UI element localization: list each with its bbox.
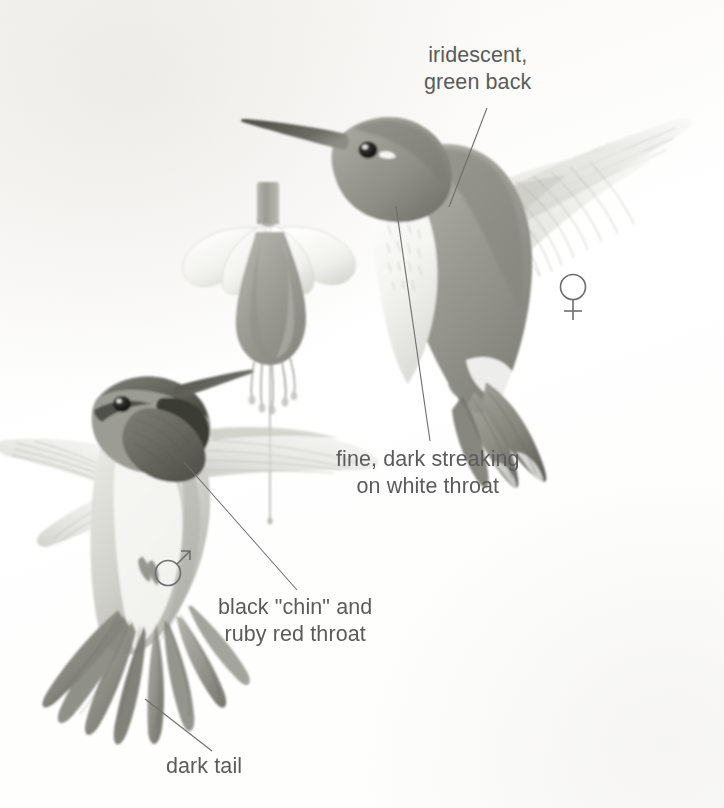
- hummingbird-illustration: [0, 0, 724, 808]
- female-bill: [241, 119, 349, 150]
- field-guide-plate: iridescent, green back fine, dark streak…: [0, 0, 724, 808]
- male-bill: [175, 370, 254, 398]
- label-iridescent-green-back: iridescent, green back: [424, 42, 531, 95]
- male-eye: [113, 396, 131, 412]
- label-dark-tail: dark tail: [166, 753, 242, 780]
- label-black-chin-ruby-throat: black "chin" and ruby red throat: [218, 594, 372, 647]
- female-eye: [359, 142, 378, 159]
- male-symbol: [152, 545, 196, 589]
- flower-stamens: [251, 358, 295, 408]
- female-symbol: [556, 272, 590, 324]
- flower-stem: [257, 182, 279, 224]
- label-fine-dark-streaking: fine, dark streaking on white throat: [336, 446, 520, 499]
